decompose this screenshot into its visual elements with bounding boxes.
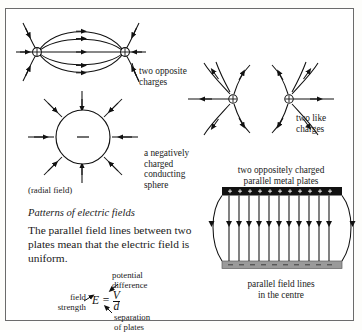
section-heading: Patterns of electric fields xyxy=(28,207,135,218)
charge-marker-positive-right xyxy=(121,48,130,57)
caption-charged-sphere: a negatively charged conducting sphere xyxy=(144,148,189,190)
formula-leader-lines xyxy=(26,271,216,333)
caption-two-like-charges: two like charges xyxy=(296,113,326,134)
charge-marker-like-right xyxy=(285,95,293,103)
figure-border: two opposite charges xyxy=(5,8,354,321)
formula-group: potential difference field strength sepa… xyxy=(26,271,216,333)
caption-radial-field: (radial field) xyxy=(28,185,72,196)
charge-marker-positive-left xyxy=(33,48,42,57)
caption-two-opposite-charges: two opposite charges xyxy=(139,66,187,87)
charge-marker-like-left xyxy=(229,95,237,103)
diagram-charged-sphere xyxy=(20,91,150,191)
caption-parallel-field-lines: parallel field lines in the centre xyxy=(211,279,351,300)
diagram-parallel-plates xyxy=(208,185,356,275)
body-paragraph: The parallel field lines between two pla… xyxy=(28,223,218,266)
fringe-lines xyxy=(213,196,351,262)
field-lines xyxy=(229,196,329,262)
field-line-arrowheads xyxy=(226,221,332,227)
caption-parallel-plates: two oppositely charged parallel metal pl… xyxy=(211,165,351,186)
